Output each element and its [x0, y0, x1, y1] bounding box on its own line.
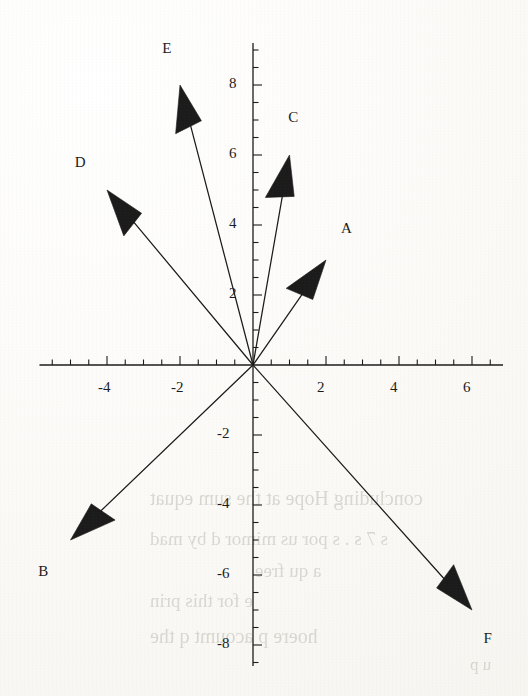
arrowhead-E [176, 85, 202, 134]
y-tick-label: -4 [217, 495, 230, 512]
y-tick-label: 4 [229, 215, 237, 232]
vector-label-A: A [341, 220, 352, 237]
y-tick-label: 6 [229, 145, 237, 162]
vector-shaft-A [253, 284, 310, 365]
x-tick-label: 6 [463, 379, 471, 396]
vector-F [253, 365, 472, 610]
arrowhead-C [265, 155, 294, 197]
arrowhead-A [286, 260, 326, 300]
vector-label-E: E [162, 40, 172, 57]
arrowhead-B [71, 504, 116, 540]
vector-shaft-F [253, 365, 453, 589]
x-tick-label: -2 [171, 379, 184, 396]
vectors-group [71, 85, 473, 610]
y-tick-label: -8 [217, 635, 230, 652]
vector-label-C: C [288, 109, 299, 126]
y-tick-label: 2 [229, 285, 237, 302]
vector-diagram-plot [0, 0, 528, 696]
vector-shaft-E [187, 113, 253, 365]
x-tick-label: -4 [98, 379, 111, 396]
y-tick-label: 8 [229, 75, 237, 92]
arrowhead-F [437, 565, 472, 610]
arrowhead-D [107, 190, 142, 236]
axes-group [39, 43, 503, 666]
vector-E [176, 85, 253, 365]
y-tick-label: -2 [217, 425, 230, 442]
vector-shaft-C [253, 183, 285, 365]
vector-C [253, 155, 294, 365]
vector-label-B: B [38, 563, 49, 580]
y-tick-label: -6 [217, 565, 230, 582]
vector-label-F: F [483, 630, 492, 647]
vector-A [253, 260, 326, 365]
x-tick-label: 2 [317, 379, 325, 396]
vector-label-D: D [75, 154, 86, 171]
x-tick-label: 4 [390, 379, 398, 396]
